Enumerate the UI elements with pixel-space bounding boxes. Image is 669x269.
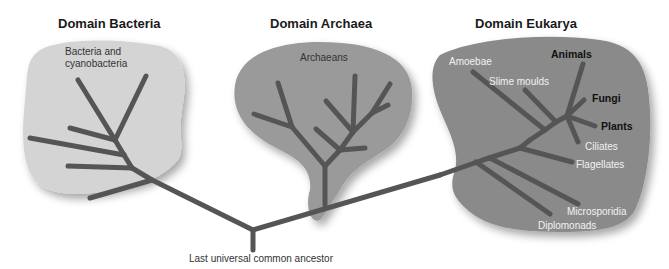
eukarya-label-animals: Animals bbox=[551, 48, 592, 60]
domain-eukarya-title: Domain Eukarya bbox=[475, 16, 577, 31]
bacteria-group-label: Bacteria and cyanobacteria bbox=[65, 46, 155, 70]
eukarya-label-diplomonads: Diplomonads bbox=[538, 220, 596, 232]
archaea-group-label: Archaeans bbox=[300, 52, 348, 64]
eukarya-label-slime-moulds: Slime moulds bbox=[489, 76, 549, 88]
eukarya-label-ciliates: Ciliates bbox=[585, 141, 618, 153]
eukarya-label-flagellates: Flagellates bbox=[576, 159, 624, 171]
eukarya-label-microsporidia: Microsporidia bbox=[567, 206, 626, 218]
eukarya-label-plants: Plants bbox=[601, 120, 633, 132]
domain-archaea-title: Domain Archaea bbox=[270, 16, 372, 31]
eukarya-label-fungi: Fungi bbox=[592, 92, 621, 104]
tree-of-life-diagram: Domain Bacteria Domain Archaea Domain Eu… bbox=[0, 0, 669, 269]
domain-bacteria-title: Domain Bacteria bbox=[58, 16, 161, 31]
eukarya-label-amoebae: Amoebae bbox=[449, 56, 492, 68]
root-label: Last universal common ancestor bbox=[189, 253, 333, 265]
